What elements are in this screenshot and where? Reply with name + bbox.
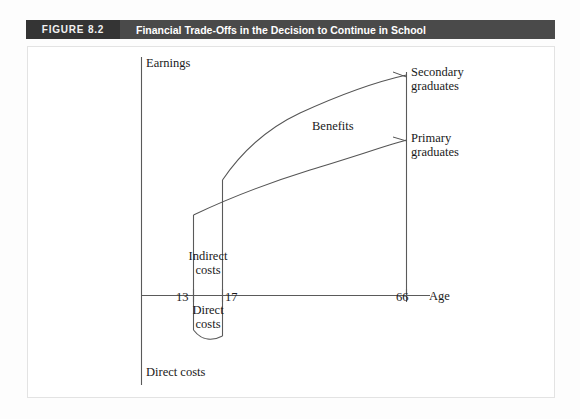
annotation-benefits: Benefits <box>312 119 354 133</box>
y-axis-label-earnings: Earnings <box>146 56 190 70</box>
figure-page: FIGURE 8.2 Financial Trade-Offs in the D… <box>0 0 580 419</box>
series-label-primary-line1: Primary <box>411 131 451 145</box>
figure-frame <box>27 46 555 398</box>
figure-number-tag: FIGURE 8.2 <box>26 20 120 39</box>
annotation-direct-costs-line1: Direct <box>178 303 238 317</box>
y-axis-label-direct-costs: Direct costs <box>146 365 205 379</box>
annotation-indirect-costs-line1: Indirect <box>178 249 238 263</box>
series-label-secondary-line1: Secondary <box>411 65 464 79</box>
annotation-indirect-costs-line2: costs <box>178 263 238 277</box>
series-label-primary-line2: graduates <box>411 145 459 159</box>
annotation-direct-costs-line2: costs <box>178 317 238 331</box>
x-axis-label-age: Age <box>429 289 450 303</box>
x-tick-label-66: 66 <box>396 290 409 304</box>
x-tick-label-17: 17 <box>225 290 238 304</box>
figure-title: Financial Trade-Offs in the Decision to … <box>136 24 426 36</box>
x-tick-label-13: 13 <box>176 290 189 304</box>
series-label-secondary-line2: graduates <box>411 79 459 93</box>
figure-header-bar: FIGURE 8.2 Financial Trade-Offs in the D… <box>26 20 555 39</box>
